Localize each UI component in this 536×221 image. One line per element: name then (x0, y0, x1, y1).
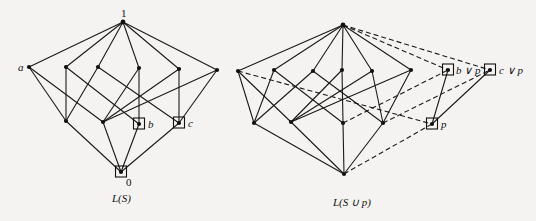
right-node-m5 (409, 68, 413, 72)
right-node-b (341, 121, 345, 125)
lattice-figure: 1abc0 L(S) b ∨ pc ∨ pp L(S ∪ p) (0, 0, 536, 221)
left-node-m5 (215, 68, 219, 72)
right-edge-c-cvp-dashed (383, 70, 490, 123)
left-node-l1 (64, 119, 68, 123)
left-edge-m4-l2 (103, 69, 179, 122)
right-node-bottom (342, 172, 346, 176)
right-caption: L(S ∪ p) (332, 196, 371, 209)
left-edge-top-a (29, 22, 123, 67)
right-edge-top-m4 (343, 25, 372, 71)
left-edge-top-m2 (98, 22, 123, 67)
right-edge-m3-b (342, 70, 343, 123)
right-edge-bottom-p-dashed (344, 124, 432, 174)
right-node-top (341, 23, 346, 28)
right-edge-m5-c (383, 70, 411, 123)
right-label-bvp: b ∨ p (456, 64, 481, 76)
right-edge-top-m1 (274, 25, 343, 70)
right-edge-top-m5 (343, 25, 411, 70)
right-node-l1 (252, 121, 256, 125)
right-node-cvp (488, 68, 492, 72)
left-node-bottom (119, 170, 123, 174)
left-node-c (177, 121, 181, 125)
left-nodes: 1abc0 (18, 7, 219, 188)
right-edge-l1-bottom (254, 123, 344, 174)
left-edge-a-l1 (29, 67, 66, 121)
left-node-m3 (137, 66, 141, 70)
left-edge-top-m1 (66, 22, 123, 67)
right-edge-cvp-p (432, 70, 490, 124)
left-node-top (121, 20, 126, 25)
left-caption: L(S) (111, 192, 131, 205)
right-edge-m3-l2 (291, 70, 342, 122)
right-edge-a-p-dashed (238, 71, 432, 124)
left-edge-m2-l1 (66, 67, 98, 121)
right-node-m2 (311, 69, 315, 73)
left-label-b: b (148, 118, 154, 130)
right-edge-c-bottom (344, 123, 383, 174)
right-edge-b-bvp-dashed (343, 70, 448, 123)
right-node-bvp (446, 68, 450, 72)
left-label-c: c (188, 117, 193, 129)
lattice-right: b ∨ pc ∨ pp L(S ∪ p) (236, 23, 523, 209)
right-edge-top-m3 (342, 25, 343, 70)
right-node-m1 (272, 68, 276, 72)
right-edges (238, 25, 490, 174)
right-edge-top-bvp-dashed (343, 25, 448, 70)
right-label-cvp: c ∨ p (499, 64, 523, 76)
right-label-p: p (440, 118, 447, 130)
right-edge-b-bottom (343, 123, 344, 174)
right-edge-top-a (238, 25, 343, 71)
left-label-a: a (18, 61, 24, 73)
left-edge-m5-c (179, 70, 217, 123)
left-node-a (27, 65, 31, 69)
left-label-bottom: 0 (126, 176, 132, 188)
left-node-b (137, 122, 141, 126)
right-edge-m4-c (372, 71, 383, 123)
left-edge-m1-b (66, 67, 139, 124)
left-node-m4 (177, 67, 181, 71)
left-node-l2 (101, 120, 105, 124)
right-node-l2 (289, 120, 293, 124)
right-node-a (236, 69, 240, 73)
left-edges (29, 22, 217, 172)
right-node-m4 (370, 69, 374, 73)
right-node-p (430, 122, 434, 126)
left-edge-l1-bottom (66, 121, 121, 172)
left-node-m2 (96, 65, 100, 69)
right-node-c (381, 121, 385, 125)
left-label-top: 1 (121, 7, 127, 19)
right-node-m3 (340, 68, 344, 72)
lattice-left: 1abc0 L(S) (18, 7, 219, 205)
right-edge-m5-l2 (291, 70, 411, 122)
left-edge-l2-bottom (103, 122, 121, 172)
right-nodes: b ∨ pc ∨ pp (236, 23, 523, 176)
left-node-m1 (64, 65, 68, 69)
